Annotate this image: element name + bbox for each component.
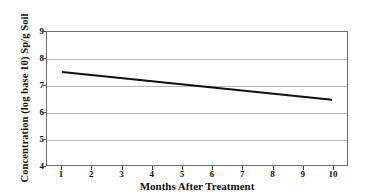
x-axis-title: Months After Treatment <box>46 181 348 192</box>
x-axis-tick-label: 3 <box>119 170 124 179</box>
y-axis-title: Concentration (log base 10) Sp/g Soil <box>20 13 31 182</box>
data-series-layer <box>47 32 347 165</box>
x-axis-tick-label: 9 <box>300 170 305 179</box>
plot-area <box>46 31 348 166</box>
x-axis-tick-label: 2 <box>89 170 94 179</box>
x-axis-tick-label: 4 <box>149 170 154 179</box>
x-axis-tick-label: 7 <box>240 170 245 179</box>
x-axis-tick-label: 8 <box>270 170 275 179</box>
chart-figure: Concentration (log base 10) Sp/g Soil 45… <box>0 0 367 195</box>
x-axis-tick-label: 1 <box>59 170 64 179</box>
x-axis-tick-label: 5 <box>180 170 185 179</box>
x-axis-tick-label: 10 <box>328 170 337 179</box>
x-axis-tick-label: 6 <box>210 170 215 179</box>
data-series-line <box>62 72 332 100</box>
